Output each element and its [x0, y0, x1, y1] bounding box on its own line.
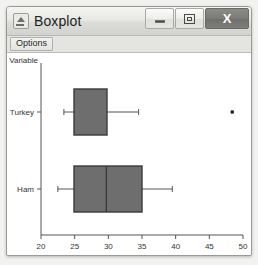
outlier-point — [231, 110, 234, 113]
boxplot-window: Boxplot X Options 20253035404550Variable… — [6, 6, 252, 256]
box-rect — [74, 89, 107, 135]
window-title-bar[interactable]: Boxplot X — [7, 7, 251, 36]
y-axis-category-label: Ham — [17, 185, 34, 194]
desktop-background: Boxplot X Options 20253035404550Variable… — [0, 0, 258, 265]
boxplot-chart: 20253035404550VariableTurkeyHam — [7, 53, 251, 255]
boxplot-svg: 20253035404550VariableTurkeyHam — [7, 53, 251, 255]
maximize-button[interactable] — [175, 8, 204, 29]
menu-item-options[interactable]: Options — [10, 37, 53, 52]
x-axis-tick-label: 45 — [205, 242, 214, 251]
window-controls: X — [144, 8, 249, 30]
y-axis-title: Variable — [9, 56, 38, 65]
window-title: Boxplot — [34, 13, 81, 29]
x-axis-tick-label: 25 — [70, 242, 79, 251]
close-icon: X — [223, 12, 232, 25]
box-rect — [74, 166, 142, 212]
x-axis-tick-label: 35 — [138, 242, 147, 251]
boxplot-group: Ham — [17, 166, 172, 212]
minimize-icon — [155, 20, 165, 23]
menu-bar: Options — [7, 36, 251, 53]
close-button[interactable]: X — [205, 8, 249, 29]
x-axis-tick-label: 50 — [239, 242, 248, 251]
y-axis-category-label: Turkey — [10, 108, 34, 117]
boxplot-group: Turkey — [10, 89, 234, 135]
minimize-button[interactable] — [145, 8, 174, 29]
x-axis-tick-label: 40 — [171, 242, 180, 251]
maximize-icon — [184, 14, 195, 24]
chart-app-icon — [13, 13, 29, 29]
x-axis-tick-label: 20 — [37, 242, 46, 251]
x-axis-tick-label: 30 — [104, 242, 113, 251]
